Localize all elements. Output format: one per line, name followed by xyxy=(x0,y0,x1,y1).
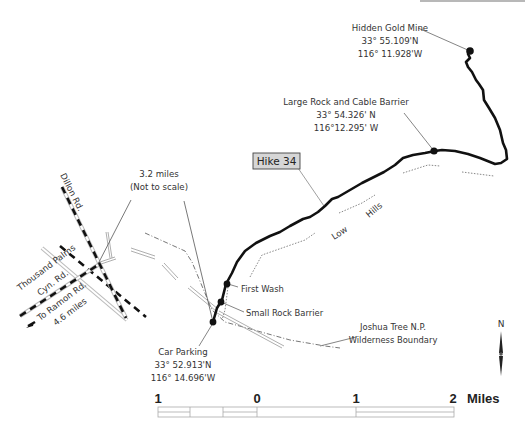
distance-leader-left xyxy=(98,200,131,264)
scale-label-1-left: 1 xyxy=(154,391,161,406)
north-label: N xyxy=(498,319,505,329)
first-wash-marker[interactable] xyxy=(224,281,231,288)
gold-mine-lat: 33° 55.109'N xyxy=(362,36,419,46)
small-barrier-label: Small Rock Barrier xyxy=(246,308,324,318)
gold-mine-name: Hidden Gold Mine xyxy=(352,23,428,33)
dillon-road-path xyxy=(0,0,42,249)
scale-bar: 1 0 1 2 Miles xyxy=(154,391,499,417)
low-hills-label-hills: Hills xyxy=(364,200,385,220)
car-parking-name: Car Parking xyxy=(158,347,207,357)
trail-path xyxy=(213,51,507,322)
hidden-gold-mine-marker[interactable] xyxy=(466,47,474,55)
car-parking-marker[interactable] xyxy=(210,319,217,326)
car-parking-lat: 33° 52.913'N xyxy=(155,360,212,370)
first-wash-label: First Wash xyxy=(241,284,284,294)
rock-barrier-lon: 116°12.295' W xyxy=(314,123,379,133)
car-parking-leader xyxy=(199,323,213,346)
distance-leader-right xyxy=(184,201,212,318)
scale-label-2: 2 xyxy=(449,391,456,406)
hike-badge-leader xyxy=(298,168,324,206)
scale-label-0: 0 xyxy=(253,391,260,406)
rock-barrier-lat: 33° 54.326' N xyxy=(316,110,376,120)
car-parking-lon: 116° 14.696'W xyxy=(151,373,216,383)
rock-barrier-name: Large Rock and Cable Barrier xyxy=(283,97,409,107)
trail-map: Hike 34 Hidden Gold Mine 33° 55.109'N 11… xyxy=(0,0,525,442)
scale-label-1: 1 xyxy=(352,391,359,406)
distance-note-line1: 3.2 miles xyxy=(139,169,179,179)
scale-unit: Miles xyxy=(467,391,500,406)
low-hills-label-low: Low xyxy=(330,224,350,242)
boundary-label-2: Wilderness Boundary xyxy=(349,335,438,345)
large-rock-barrier-marker[interactable] xyxy=(430,147,437,154)
small-barrier-leader xyxy=(221,302,244,312)
distance-note-line2: (Not to scale) xyxy=(130,182,188,192)
boundary-label-1: Joshua Tree N.P. xyxy=(359,322,426,332)
low-hills-ridges xyxy=(222,155,494,320)
north-arrow-icon: N xyxy=(498,319,505,376)
hike-badge-label: Hike 34 xyxy=(257,155,297,167)
gold-mine-lon: 116° 11.928'W xyxy=(358,49,423,59)
small-rock-barrier-marker[interactable] xyxy=(218,299,225,306)
rock-barrier-leader xyxy=(404,113,434,151)
